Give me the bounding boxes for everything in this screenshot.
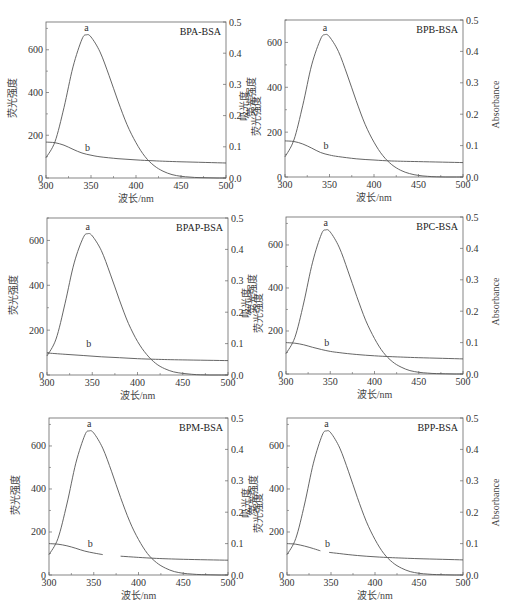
series-line-a: [287, 431, 463, 575]
panel-title: BPM-BSA: [179, 422, 224, 433]
y-tick-label: 400: [267, 82, 282, 93]
y2-tick-label: 0.3: [466, 475, 479, 486]
y2-tick-label: 0.2: [466, 306, 479, 317]
x-tick-label: 350: [85, 377, 100, 388]
y-tick-label: 0: [41, 570, 46, 581]
series-line-b: [121, 556, 228, 560]
plot-frame: [47, 218, 228, 375]
chart-panel-bpp-bsa: 30035040045050002004006000.00.10.20.30.4…: [247, 413, 501, 602]
x-tick-label: 400: [367, 376, 382, 387]
series-line-b: [285, 141, 463, 163]
series-line-a: [285, 34, 463, 177]
curve-label-b: b: [85, 142, 90, 153]
curve-label-a: a: [324, 418, 329, 429]
y-axis-label: 荧光强度: [245, 77, 257, 117]
series-line-b: [49, 544, 103, 555]
y-tick-label: 600: [28, 44, 43, 55]
y2-tick-label: 0.1: [231, 538, 244, 549]
series-line-b: [46, 142, 226, 163]
y-tick-label: 600: [268, 239, 283, 250]
series-line-a: [49, 431, 228, 575]
chart-panel-bpap-bsa: 30035040045050002004006000.00.10.20.30.4…: [7, 213, 264, 402]
y-tick-label: 200: [269, 526, 284, 537]
panel-title: BPA-BSA: [180, 26, 222, 37]
x-axis-label: 波长/nm: [118, 192, 154, 204]
y2-tick-label: 0.4: [229, 48, 242, 59]
x-tick-label: 350: [322, 179, 337, 190]
plot-frame: [285, 20, 463, 177]
y-tick-label: 0: [278, 369, 283, 380]
x-tick-label: 350: [324, 577, 339, 588]
x-axis-label: 波长/nm: [120, 389, 156, 401]
y2-tick-label: 0.0: [466, 172, 479, 183]
plot-frame: [286, 217, 463, 374]
y-axis-label: 荧光强度: [247, 475, 259, 515]
y-tick-label: 400: [31, 483, 46, 494]
panel-title: BPC-BSA: [416, 221, 458, 232]
x-tick-label: 450: [411, 179, 426, 190]
y-tick-label: 0: [39, 370, 44, 381]
y-axis-label: 荧光强度: [246, 274, 258, 314]
y-tick-label: 400: [269, 483, 284, 494]
y2-tick-label: 0.1: [466, 538, 479, 549]
x-tick-label: 450: [176, 577, 191, 588]
y2-tick-label: 0.3: [231, 475, 244, 486]
chart-panel-bpa-bsa: 30035040045050002004006000.00.10.20.30.4…: [6, 17, 262, 205]
y2-tick-label: 0.2: [466, 507, 479, 518]
y2-tick-label: 0.5: [466, 413, 479, 424]
y-tick-label: 200: [28, 130, 43, 141]
y2-tick-label: 0.3: [466, 274, 479, 285]
y2-tick-label: 0.0: [466, 570, 479, 581]
y-tick-label: 600: [269, 440, 284, 451]
y2-axis-label: Absorbance: [490, 80, 501, 128]
curve-label-a: a: [323, 22, 328, 33]
y-tick-label: 600: [267, 37, 282, 48]
chart-panel-bpc-bsa: 30035040045050002004006000.00.10.20.30.4…: [246, 212, 501, 401]
series-line-a: [46, 35, 226, 178]
x-tick-label: 350: [84, 180, 99, 191]
y-tick-label: 200: [31, 526, 46, 537]
x-tick-label: 350: [323, 376, 338, 387]
chart-panel-bpb-bsa: 30035040045050002004006000.00.10.20.30.4…: [245, 15, 501, 204]
y-axis-label: 荧光强度: [9, 475, 21, 515]
x-tick-label: 450: [411, 376, 426, 387]
y2-tick-label: 0.1: [229, 141, 242, 152]
y2-tick-label: 0.5: [466, 212, 479, 223]
series-line-b: [286, 343, 463, 359]
y2-tick-label: 0.1: [466, 337, 479, 348]
y2-tick-label: 0.4: [466, 243, 479, 254]
y2-tick-label: 0.4: [231, 244, 244, 255]
x-tick-label: 450: [175, 377, 190, 388]
y2-tick-label: 0.0: [466, 369, 479, 380]
y2-axis-label: Absorbance: [490, 277, 501, 325]
plot-frame: [46, 22, 226, 178]
curve-label-b: b: [323, 140, 328, 151]
y-tick-label: 600: [31, 440, 46, 451]
x-axis-label: 波长/nm: [357, 388, 393, 400]
plot-frame: [287, 418, 463, 575]
y2-tick-label: 0.4: [466, 444, 479, 455]
x-tick-label: 450: [174, 180, 189, 191]
y2-tick-label: 0.1: [231, 338, 244, 349]
panel-title: BPB-BSA: [416, 24, 458, 35]
y-tick-label: 400: [268, 282, 283, 293]
x-axis-label: 波长/nm: [121, 589, 157, 601]
y-tick-label: 200: [29, 325, 44, 336]
y-axis-label: 荧光强度: [7, 275, 19, 315]
y2-tick-label: 0.4: [466, 46, 479, 57]
y2-axis-label: Absorbance: [490, 478, 501, 526]
curve-label-a: a: [87, 418, 92, 429]
curve-label-b: b: [325, 538, 330, 549]
y2-tick-label: 0.5: [231, 413, 244, 424]
chart-panel-bpm-bsa: 30035040045050002004006000.00.10.20.30.4…: [9, 413, 264, 602]
x-tick-label: 350: [86, 577, 101, 588]
x-tick-label: 400: [367, 179, 382, 190]
x-tick-label: 400: [368, 577, 383, 588]
panel-title: BPAP-BSA: [176, 222, 224, 233]
y-tick-label: 0: [277, 172, 282, 183]
x-tick-label: 400: [129, 180, 144, 191]
x-tick-label: 400: [130, 377, 145, 388]
y2-tick-label: 0.0: [231, 570, 244, 581]
curve-label-a: a: [324, 217, 329, 228]
y2-tick-label: 0.2: [466, 109, 479, 120]
